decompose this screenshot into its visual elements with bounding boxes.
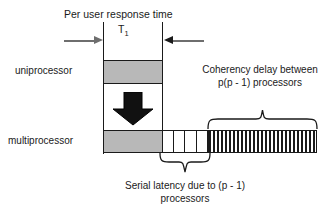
t1-left-dimension-arrow-icon <box>64 36 103 45</box>
figure-title: Per user response time <box>64 8 173 20</box>
row-label-multiprocessor: multiprocessor <box>8 135 73 147</box>
t1-subscript: 1 <box>124 29 128 38</box>
coherency-delay-bar <box>208 130 317 153</box>
t1-right-dimension-arrow-icon <box>164 36 204 45</box>
figure-canvas: Per user response time T1 uniprocessor m… <box>0 0 329 212</box>
t1-interval-label: T1 <box>118 23 129 40</box>
coherency-delay-brace <box>206 108 319 130</box>
multiprocessor-work-bar <box>103 130 163 153</box>
serial-segment-divider <box>173 131 174 152</box>
serial-segment-divider <box>184 131 185 152</box>
serial-latency-bar <box>162 130 208 153</box>
uniprocessor-work-bar <box>103 60 163 84</box>
serial-latency-label: Serial latency due to (p - 1) processors <box>111 179 259 205</box>
serial-segment-divider <box>196 131 197 152</box>
arrow-shaft <box>173 40 204 42</box>
coherency-delay-label: Coherency delay between p(p - 1) process… <box>196 63 324 89</box>
arrow-head <box>94 36 103 44</box>
row-label-uniprocessor: uniprocessor <box>15 65 72 77</box>
arrow-shaft <box>64 40 95 42</box>
down-arrow-icon <box>112 92 154 126</box>
arrow-head <box>164 36 173 44</box>
serial-latency-brace <box>158 153 212 174</box>
